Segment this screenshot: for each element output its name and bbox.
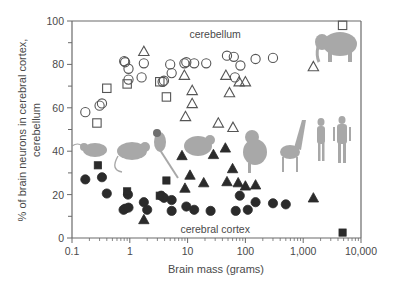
agouti-illustration (184, 135, 215, 156)
filled-triangle-marker (227, 163, 237, 172)
y-tick-label: 20 (52, 189, 64, 201)
open-triangle-marker (187, 85, 197, 94)
open-triangle-marker (180, 111, 190, 120)
open-triangle-marker (139, 46, 149, 55)
open-triangle-marker (187, 98, 197, 107)
filled-triangle-marker (177, 150, 187, 159)
open-circle-marker (167, 68, 176, 77)
open-triangle-marker (221, 70, 231, 79)
open-square-marker (103, 84, 111, 92)
filled-triangle-marker (180, 183, 190, 192)
open-circle-marker (97, 99, 106, 108)
filled-triangle-marker (199, 177, 209, 186)
x-tick-label: 1,000 (290, 245, 316, 257)
filled-triangle-marker (308, 193, 318, 202)
filled-circle-marker (81, 175, 90, 184)
filled-triangle-marker (222, 176, 232, 185)
y-tick-label: 0 (58, 232, 64, 244)
filled-circle-marker (281, 200, 290, 209)
open-circle-marker (137, 73, 146, 82)
mouse-illustration (72, 143, 107, 157)
cerebral-cortex-label: cerebral cortex (180, 223, 250, 235)
x-axis-label: Brain mass (grams) (168, 263, 264, 275)
filled-circle-marker (268, 199, 277, 208)
x-tick-label: 1 (127, 245, 133, 257)
open-triangle-marker (228, 122, 238, 131)
filled-circle-marker (143, 205, 152, 214)
filled-circle-marker (190, 205, 199, 214)
y-axis-label-line1: % of brain neurons in cerebral cortex, (16, 39, 28, 222)
filled-triangle-marker (220, 143, 230, 152)
open-triangle-marker (179, 70, 189, 79)
filled-circle-marker (102, 189, 111, 198)
open-square-marker (162, 93, 170, 101)
filled-circle-marker (124, 203, 133, 212)
filled-circle-marker (167, 206, 176, 215)
region-annotations: cerebellumcerebral cortex (180, 28, 250, 235)
y-tick-label: 80 (52, 58, 64, 70)
scatter-chart: 0.11101001,00010,000020406080100 cerebel… (0, 0, 393, 290)
filled-square-marker (163, 177, 170, 184)
human-female-illustration (317, 118, 325, 161)
open-triangle-marker (308, 61, 318, 70)
filled-square-marker (124, 188, 131, 195)
filled-circle-marker (235, 191, 244, 200)
filled-circle-marker (206, 206, 215, 215)
filled-circle-marker (243, 205, 252, 214)
open-square-marker (93, 119, 101, 127)
monkey-illustration (243, 130, 267, 173)
filled-triangle-marker (139, 214, 149, 223)
open-circle-marker (166, 60, 175, 69)
x-tick-label: 10,000 (345, 245, 377, 257)
x-tick-label: 10 (182, 245, 194, 257)
filled-square-marker (156, 192, 163, 199)
filled-triangle-marker (233, 177, 243, 186)
open-circle-marker (236, 61, 245, 70)
open-circle-marker (202, 59, 211, 68)
open-circle-marker (95, 101, 104, 110)
filled-circle-marker (97, 173, 106, 182)
x-tick-label: 100 (237, 245, 255, 257)
open-circle-marker (229, 52, 238, 61)
rat-illustration (115, 142, 150, 172)
filled-square-marker (339, 229, 346, 236)
y-tick-label: 100 (46, 15, 64, 27)
open-circle-marker (251, 54, 260, 63)
y-axis-label-line2: cerebellum (30, 103, 42, 157)
elephant-illustration (315, 32, 357, 62)
squirrel-illustration (153, 129, 178, 178)
y-tick-label: 40 (52, 145, 64, 157)
data-markers (81, 21, 347, 236)
y-tick-label: 60 (52, 102, 64, 114)
filled-circle-marker (167, 195, 176, 204)
filled-triangle-marker (185, 170, 195, 179)
open-circle-marker (81, 108, 90, 117)
open-triangle-marker (213, 118, 223, 127)
filled-circle-marker (251, 198, 260, 207)
giraffe-illustration (280, 120, 306, 172)
open-triangle-marker (224, 87, 234, 96)
filled-triangle-marker (250, 180, 260, 189)
x-tick-label: 0.1 (65, 245, 80, 257)
filled-square-marker (94, 162, 101, 169)
human-male-illustration (333, 116, 351, 163)
open-square-marker (338, 21, 346, 29)
open-circle-marker (268, 53, 277, 62)
open-circle-marker (139, 59, 148, 68)
filled-circle-marker (231, 206, 240, 215)
cerebellum-label: cerebellum (189, 28, 241, 40)
